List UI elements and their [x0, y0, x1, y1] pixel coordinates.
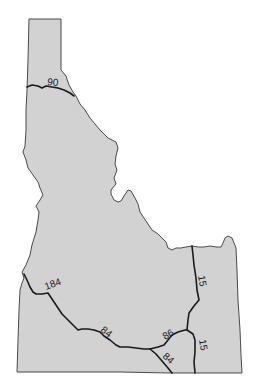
highway-label-i90: 90 — [47, 76, 60, 88]
idaho-highway-map: 90 184 84 86 84 15 15 — [0, 0, 253, 392]
map-canvas: 90 184 84 86 84 15 15 — [0, 0, 253, 392]
idaho-state-outline — [17, 19, 242, 373]
